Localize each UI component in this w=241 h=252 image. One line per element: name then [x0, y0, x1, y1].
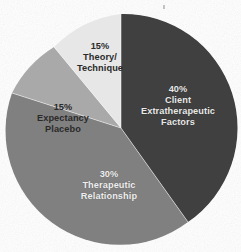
pie-chart-graphic	[0, 0, 241, 252]
pie-svg	[0, 0, 241, 252]
pie-chart-figure: 40% Client Extratherapeutic Factors 30% …	[0, 0, 241, 252]
